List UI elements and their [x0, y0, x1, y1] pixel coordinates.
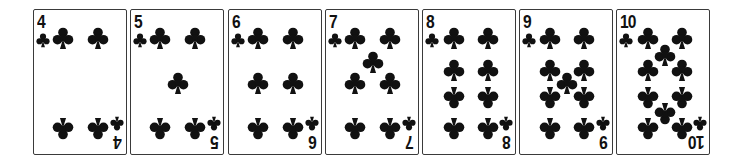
club-icon	[379, 117, 401, 140]
rank-index-top: 4	[37, 12, 45, 31]
club-icon	[477, 86, 499, 109]
club-icon	[477, 117, 499, 140]
playing-card-6-of-clubs[interactable]: 6	[228, 9, 322, 155]
club-icon	[619, 33, 633, 48]
rank-index-top: 9	[523, 12, 531, 31]
club-icon	[149, 27, 171, 50]
club-icon	[573, 117, 595, 140]
club-icon	[231, 33, 245, 48]
club-icon	[693, 116, 707, 131]
club-icon	[522, 33, 536, 48]
club-icon	[539, 117, 561, 140]
club-icon	[443, 27, 465, 50]
club-icon	[573, 27, 595, 50]
club-icon	[167, 72, 189, 95]
club-icon	[247, 72, 269, 95]
club-icon	[402, 116, 416, 131]
club-icon	[637, 117, 659, 140]
club-icon	[167, 72, 189, 95]
playing-card-7-of-clubs[interactable]: 7	[325, 9, 419, 155]
club-icon	[110, 116, 124, 131]
rank-index-top: 6	[232, 12, 240, 31]
club-icon	[52, 117, 74, 140]
rank-index-top: 8	[426, 12, 434, 31]
club-icon	[344, 72, 366, 95]
rank-index-top: 5	[134, 12, 142, 31]
playing-card-4-of-clubs[interactable]: 4 4	[33, 9, 127, 155]
playing-card-8-of-clubs[interactable]: 8	[422, 9, 516, 155]
club-icon	[443, 59, 465, 82]
club-icon	[671, 59, 693, 82]
club-icon	[247, 117, 269, 140]
playing-card-9-of-clubs[interactable]: 9	[519, 9, 613, 155]
club-icon	[247, 27, 269, 50]
rank-index-bottom: 7	[406, 133, 414, 152]
club-icon	[443, 86, 465, 109]
club-icon	[539, 117, 561, 140]
rank-index-bottom: 6	[309, 133, 317, 152]
club-icon	[637, 59, 659, 82]
club-icon	[477, 59, 499, 82]
club-icon	[282, 27, 304, 50]
club-icon	[184, 27, 206, 50]
club-icon	[499, 116, 513, 131]
club-icon	[425, 33, 439, 48]
rank-index-bottom: 8	[503, 133, 511, 152]
club-icon	[344, 117, 366, 140]
club-icon	[379, 117, 401, 140]
club-icon	[36, 33, 50, 48]
club-icon	[443, 86, 465, 109]
club-icon	[539, 27, 561, 50]
club-icon	[184, 117, 206, 140]
club-icon	[637, 117, 659, 140]
club-icon	[305, 116, 319, 131]
club-icon	[499, 116, 513, 131]
playing-card-10-of-clubs[interactable]: 10	[616, 9, 710, 155]
club-icon	[149, 27, 171, 50]
club-icon	[36, 33, 50, 48]
club-icon	[52, 27, 74, 50]
club-icon	[184, 117, 206, 140]
rank-index-top: 7	[329, 12, 337, 31]
club-icon	[344, 117, 366, 140]
club-icon	[133, 33, 147, 48]
club-icon	[328, 33, 342, 48]
club-icon	[539, 86, 561, 109]
club-icon	[247, 27, 269, 50]
club-icon	[522, 33, 536, 48]
club-icon	[282, 72, 304, 95]
club-icon	[133, 33, 147, 48]
club-icon	[52, 117, 74, 140]
club-icon	[693, 116, 707, 131]
club-icon	[379, 72, 401, 95]
club-icon	[671, 59, 693, 82]
club-icon	[87, 27, 109, 50]
club-icon	[402, 116, 416, 131]
club-icon	[477, 27, 499, 50]
club-icon	[477, 27, 499, 50]
club-icon	[149, 117, 171, 140]
club-icon	[87, 27, 109, 50]
club-icon	[52, 27, 74, 50]
club-icon	[87, 117, 109, 140]
club-icon	[379, 27, 401, 50]
club-icon	[282, 27, 304, 50]
club-icon	[596, 116, 610, 131]
club-icon	[362, 51, 384, 74]
club-icon	[247, 72, 269, 95]
rank-index-bottom: 9	[600, 133, 608, 152]
club-icon	[539, 27, 561, 50]
club-icon	[87, 117, 109, 140]
rank-index-top: 10	[620, 12, 636, 31]
club-icon	[305, 116, 319, 131]
club-icon	[149, 117, 171, 140]
club-icon	[443, 117, 465, 140]
club-icon	[619, 33, 633, 48]
club-icon	[573, 86, 595, 109]
club-icon	[362, 51, 384, 74]
playing-card-5-of-clubs[interactable]: 5 5	[130, 9, 224, 155]
club-icon	[637, 59, 659, 82]
club-icon	[282, 72, 304, 95]
club-icon	[231, 33, 245, 48]
club-icon	[477, 86, 499, 109]
